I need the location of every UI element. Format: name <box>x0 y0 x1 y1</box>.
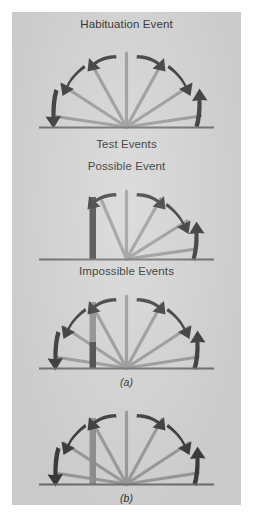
figure-plate: Habituation Event <box>12 12 241 505</box>
scene-impossible-event-a <box>12 278 241 374</box>
caption-test-events: Test Events <box>12 138 241 151</box>
sublabel-a: (a) <box>12 376 241 388</box>
panel-impossible-event-b: (b) <box>12 394 241 504</box>
rotating-flap-rays <box>55 296 198 368</box>
caption-habituation-event: Habituation Event <box>12 18 241 31</box>
caption-possible-event: Possible Event <box>12 160 241 173</box>
scene-impossible-event-b <box>12 394 241 490</box>
scene-possible-event <box>12 173 241 265</box>
rotating-flap-rays <box>53 53 201 127</box>
scene-habituation-event <box>12 31 241 133</box>
sublabel-b: (b) <box>12 492 241 504</box>
occluding-block-lower <box>90 342 97 368</box>
panel-impossible-event-a: Impossible Events <box>12 265 241 388</box>
caption-impossible-events: Impossible Events <box>12 265 241 278</box>
panel-habituation-event: Habituation Event <box>12 18 241 133</box>
panel-possible-event: Test Events Possible Event <box>12 138 241 265</box>
rotating-flap-rays <box>55 412 198 484</box>
figure-root: Habituation Event <box>0 0 253 517</box>
